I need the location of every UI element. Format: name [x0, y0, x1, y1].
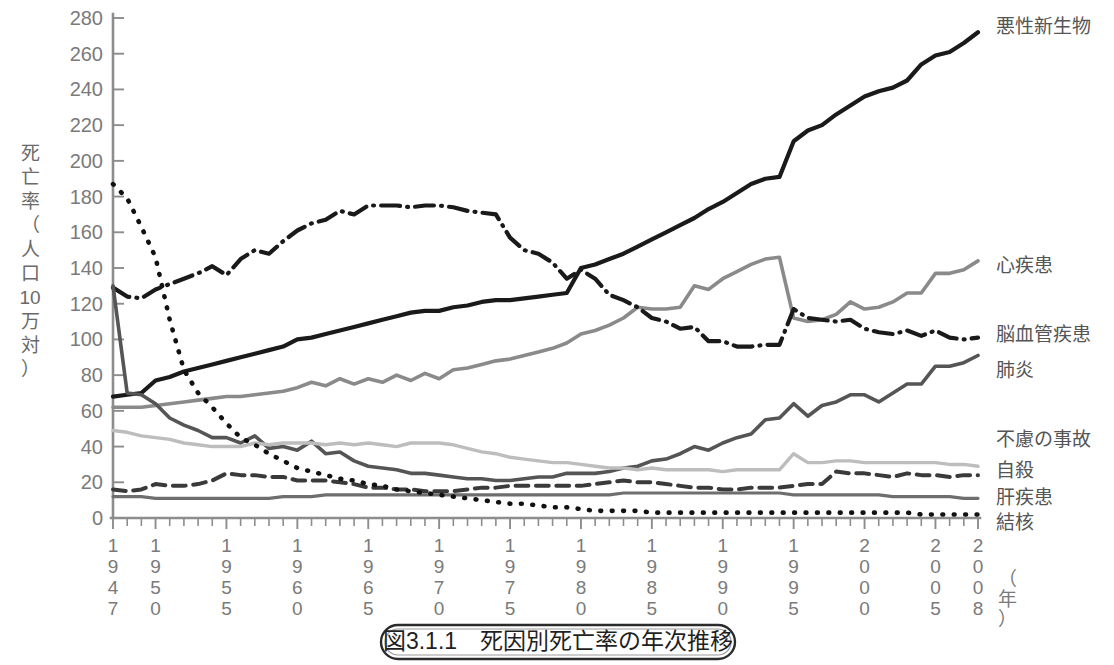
y-tick-label: 20 [81, 471, 103, 493]
y-axis-title-char: 口 [21, 263, 40, 284]
figure-container: 死亡率（人口10万対） 0204060801001201401601802002… [0, 0, 1114, 665]
x-tick-label-digit: 0 [576, 598, 587, 619]
x-tick-label-digit: 0 [973, 556, 984, 577]
x-tick-label-digit: 0 [717, 598, 728, 619]
y-tick-label: 180 [70, 186, 103, 208]
x-tick-label-digit: 9 [434, 556, 445, 577]
x-tick-label-digit: 5 [647, 598, 658, 619]
x-tick-label: 2005 [930, 535, 941, 619]
x-tick-label-digit: 0 [859, 556, 870, 577]
x-tick-label-digit: 9 [788, 577, 799, 598]
x-tick-label: 1995 [788, 535, 799, 619]
x-axis-unit-label: （年） [998, 569, 1017, 630]
series-label-0: 悪性新生物 [996, 16, 1091, 37]
x-tick-label-digit: 5 [788, 598, 799, 619]
x-tick-label: 1965 [363, 535, 374, 619]
series-label-4: 不慮の事故 [996, 429, 1091, 450]
y-axis-title-char: 死 [21, 143, 40, 164]
y-tick-label: 100 [70, 328, 103, 350]
mortality-trend-chart: 死亡率（人口10万対） 0204060801001201401601802002… [0, 0, 1114, 665]
y-tick-label: 220 [70, 114, 103, 136]
y-tick-label: 0 [92, 507, 103, 529]
x-tick-label-digit: 7 [434, 577, 445, 598]
y-axis-title-char: 対 [21, 335, 40, 356]
y-tick-label: 240 [70, 78, 103, 100]
y-axis-title-char: 万 [21, 311, 40, 332]
x-tick-label-digit: 9 [221, 556, 232, 577]
x-tick-label-digit: 7 [505, 577, 516, 598]
y-axis-title-char: 率 [21, 191, 40, 212]
x-tick-label-digit: 6 [363, 577, 374, 598]
y-tick-label: 140 [70, 257, 103, 279]
x-tick-label-digit: 9 [717, 577, 728, 598]
x-tick-label-digit: 1 [434, 535, 445, 556]
x-tick-label: 1990 [717, 535, 728, 619]
x-tick-label-digit: 0 [859, 598, 870, 619]
x-tick-label-digit: 0 [930, 577, 941, 598]
x-tick-label: 2000 [859, 535, 870, 619]
series-label-5: 自殺 [996, 460, 1034, 481]
x-tick-label-digit: 1 [647, 535, 658, 556]
x-tick-label: 1947 [108, 535, 119, 619]
x-tick-label-digit: 1 [363, 535, 374, 556]
x-tick-label-digit: 2 [859, 535, 870, 556]
x-tick-label-digit: 5 [930, 598, 941, 619]
y-tick-label: 280 [70, 7, 103, 29]
x-tick-label-digit: 4 [108, 577, 119, 598]
x-axis-unit-char: （ [998, 569, 1017, 590]
x-tick-label-digit: 1 [505, 535, 516, 556]
x-tick-label-digit: 1 [108, 535, 119, 556]
x-tick-label-digit: 9 [576, 556, 587, 577]
x-tick-label: 1955 [221, 535, 232, 619]
x-tick-label-digit: 8 [973, 598, 984, 619]
x-tick-label-digit: 0 [292, 598, 303, 619]
x-axis-unit-char: 年 [998, 589, 1017, 610]
x-tick-label-digit: 1 [717, 535, 728, 556]
y-axis-title-char: ） [21, 359, 40, 380]
x-tick-label-digit: 9 [292, 556, 303, 577]
y-axis-title-char: 人 [21, 239, 40, 260]
x-tick-label-digit: 8 [647, 577, 658, 598]
x-tick-label-digit: 9 [717, 556, 728, 577]
y-axis-title-char: 亡 [21, 167, 40, 188]
x-tick-label-digit: 1 [788, 535, 799, 556]
y-tick-label: 160 [70, 221, 103, 243]
x-tick-label-digit: 8 [576, 577, 587, 598]
x-tick-label-digit: 5 [363, 598, 374, 619]
x-tick-label: 2008 [973, 535, 984, 619]
x-tick-label-digit: 6 [292, 577, 303, 598]
x-tick-label: 1980 [576, 535, 587, 619]
x-tick-label-digit: 9 [363, 556, 374, 577]
x-tick-label-digit: 1 [576, 535, 587, 556]
chart-background [0, 0, 1114, 665]
x-tick-label-digit: 5 [221, 577, 232, 598]
series-label-2: 脳血管疾患 [996, 324, 1091, 345]
x-tick-label-digit: 5 [150, 577, 161, 598]
x-tick-label-digit: 0 [930, 556, 941, 577]
x-tick-label-digit: 0 [973, 577, 984, 598]
series-label-7: 結核 [996, 512, 1034, 533]
x-tick-label: 1985 [647, 535, 658, 619]
y-tick-label: 60 [81, 400, 103, 422]
x-tick-label-digit: 5 [221, 598, 232, 619]
y-axis-title-char: 10 [19, 287, 40, 308]
x-tick-label-digit: 2 [973, 535, 984, 556]
x-tick-label-digit: 1 [150, 535, 161, 556]
x-tick-label-digit: 1 [221, 535, 232, 556]
y-tick-label: 200 [70, 150, 103, 172]
x-tick-label-digit: 1 [292, 535, 303, 556]
x-tick-label: 1975 [505, 535, 516, 619]
x-tick-label-digit: 9 [150, 556, 161, 577]
x-tick-label: 1960 [292, 535, 303, 619]
x-tick-label-digit: 9 [108, 556, 119, 577]
x-tick-label-digit: 9 [647, 556, 658, 577]
x-tick-label: 1950 [150, 535, 161, 619]
x-tick-label-digit: 0 [150, 598, 161, 619]
x-axis-unit-char: ） [998, 609, 1017, 630]
y-tick-label: 40 [81, 436, 103, 458]
x-tick-label-digit: 9 [505, 556, 516, 577]
series-label-6: 肝疾患 [996, 487, 1053, 508]
y-tick-label: 80 [81, 364, 103, 386]
x-tick-label-digit: 7 [108, 598, 119, 619]
x-tick-label-digit: 9 [788, 556, 799, 577]
